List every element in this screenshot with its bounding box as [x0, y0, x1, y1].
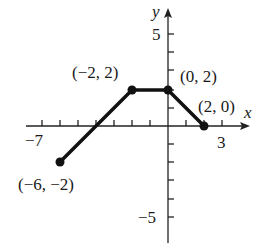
y-min-tick-label: −5 — [138, 208, 156, 227]
x-axis — [26, 120, 244, 126]
point-neg2-2 — [128, 86, 137, 95]
point-2-0 — [200, 122, 209, 131]
y-axis — [168, 14, 174, 243]
x-max-tick-label: 3 — [217, 133, 226, 152]
x-min-tick-label: −7 — [25, 131, 44, 150]
point-label-neg2-2: (−2, 2) — [72, 63, 118, 82]
x-axis-label: x — [243, 103, 252, 122]
point-label-0-2: (0, 2) — [180, 67, 217, 86]
point-label-neg6-neg2: (−6, −2) — [18, 175, 74, 194]
point-label-2-0: (2, 0) — [198, 97, 235, 116]
y-axis-label: y — [150, 2, 160, 21]
y-max-tick-label: 5 — [152, 25, 161, 44]
point-neg6-neg2 — [56, 158, 65, 167]
chart-plot: y x 5 −5 −7 3 (−6, −2) (−2, 2) (0, 2) (2… — [0, 0, 253, 249]
point-0-2 — [164, 86, 173, 95]
